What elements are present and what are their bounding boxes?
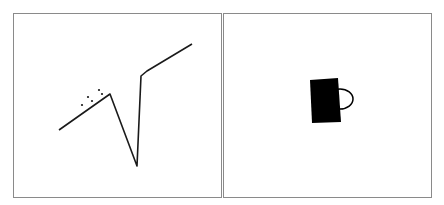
sketch-dot — [91, 100, 93, 102]
sketch-dot — [87, 96, 89, 98]
left-panel — [13, 13, 222, 198]
sketch-line — [59, 44, 192, 166]
sketch-dot — [81, 104, 83, 106]
right-panel — [223, 13, 432, 198]
sketch-dot — [98, 89, 100, 91]
mug-body — [310, 78, 341, 123]
sketch-dot — [101, 93, 103, 95]
line-sketch — [14, 14, 223, 199]
mug-icon — [224, 14, 433, 199]
